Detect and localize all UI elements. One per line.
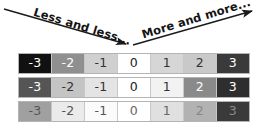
scale-cell-label: 2 bbox=[196, 57, 204, 70]
scale-cell-label: -3 bbox=[28, 81, 41, 94]
scale-cell: -2 bbox=[52, 78, 85, 97]
scale-cell-label: -1 bbox=[94, 105, 107, 118]
scale-cell: -2 bbox=[52, 54, 85, 73]
scale-cell: 1 bbox=[151, 78, 184, 97]
scale-rows-group: -3 -2 -1 0 1 2 3 -3 -2 -1 0 1 2 3 -3 -2 … bbox=[0, 0, 263, 132]
scale-cell-label: 1 bbox=[163, 105, 171, 118]
scale-cell: -3 bbox=[19, 54, 52, 73]
scale-cell: 0 bbox=[118, 102, 151, 121]
scale-cell: -3 bbox=[19, 78, 52, 97]
scale-cell-label: 2 bbox=[196, 81, 204, 94]
scale-cell: 0 bbox=[118, 54, 151, 73]
scale-row: -3 -2 -1 0 1 2 3 bbox=[18, 53, 250, 74]
scale-cell: 2 bbox=[184, 102, 217, 121]
scale-cell: 2 bbox=[184, 78, 217, 97]
scale-cell-label: 0 bbox=[130, 57, 138, 70]
scale-cell-label: 0 bbox=[130, 81, 138, 94]
scale-cell-label: -2 bbox=[61, 81, 74, 94]
scale-cell: -1 bbox=[85, 54, 118, 73]
scale-cell-label: -1 bbox=[94, 57, 107, 70]
scale-row: -3 -2 -1 0 1 2 3 bbox=[18, 101, 250, 122]
scale-cell-label: -2 bbox=[61, 57, 74, 70]
scale-cell: -1 bbox=[85, 78, 118, 97]
scale-cell-label: 1 bbox=[163, 57, 171, 70]
scale-cell: 2 bbox=[184, 54, 217, 73]
scale-cell: 0 bbox=[118, 78, 151, 97]
scale-cell-label: -2 bbox=[61, 105, 74, 118]
scale-cell-label: 1 bbox=[163, 81, 171, 94]
scale-cell: -1 bbox=[85, 102, 118, 121]
scale-cell: -3 bbox=[19, 102, 52, 121]
scale-cell: 1 bbox=[151, 102, 184, 121]
scale-cell-label: 3 bbox=[229, 81, 237, 94]
scale-cell-label: -3 bbox=[28, 105, 41, 118]
scale-cell: 3 bbox=[217, 102, 249, 121]
scale-cell-label: -1 bbox=[94, 81, 107, 94]
scale-cell-label: -3 bbox=[28, 57, 41, 70]
scale-cell-label: 3 bbox=[229, 105, 237, 118]
scale-cell: 3 bbox=[217, 78, 249, 97]
scale-cell: -2 bbox=[52, 102, 85, 121]
figure-canvas: Less and less... More and more... -3 -2 … bbox=[0, 0, 263, 132]
scale-cell-label: 3 bbox=[229, 57, 237, 70]
scale-cell-label: 2 bbox=[196, 105, 204, 118]
scale-cell: 1 bbox=[151, 54, 184, 73]
scale-row: -3 -2 -1 0 1 2 3 bbox=[18, 77, 250, 98]
scale-cell: 3 bbox=[217, 54, 249, 73]
scale-cell-label: 0 bbox=[130, 105, 138, 118]
